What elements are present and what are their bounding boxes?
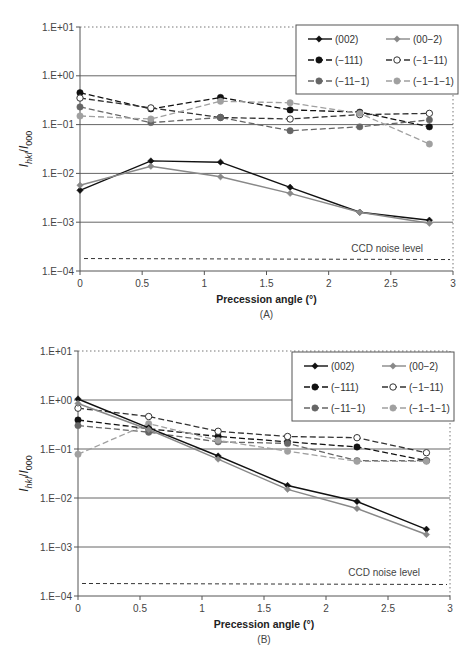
x-tick-label: 0.5 <box>133 603 147 614</box>
legend-label: (00−2) <box>409 361 438 372</box>
diamond-marker-icon <box>287 184 293 190</box>
open-circle-marker-icon <box>284 433 290 439</box>
legend-label: (−11−1) <box>335 76 369 87</box>
legend-label: (002) <box>335 34 358 45</box>
series-002 <box>77 158 433 224</box>
legend-label: (−11−1) <box>331 403 365 414</box>
filled-circle-marker-icon <box>357 124 363 130</box>
open-circle-marker-icon <box>77 95 83 101</box>
chart-panel-b: 1.E+011.E+001.E−011.E−021.E−031.E−0400.5… <box>0 330 476 660</box>
diamond-marker-icon <box>357 209 363 215</box>
open-circle-marker-icon <box>287 116 293 122</box>
diamond-marker-icon <box>354 498 360 504</box>
ccd-noise-label: CCD noise level <box>348 567 420 578</box>
legend-label: (00−2) <box>413 34 442 45</box>
diamond-marker-icon <box>354 505 360 511</box>
open-circle-marker-icon <box>215 428 221 434</box>
filled-circle-marker-icon <box>287 100 293 106</box>
y-tick-label: 1.E+01 <box>40 346 72 357</box>
filled-circle-marker-icon <box>215 437 221 443</box>
ccd-noise-label: CCD noise level <box>351 243 423 254</box>
legend-label: (−1−1−1) <box>413 76 454 87</box>
x-tick-label: 2 <box>326 278 332 289</box>
series-line <box>78 426 426 461</box>
y-tick-label: 1.E−04 <box>40 591 72 602</box>
filled-circle-marker-icon <box>217 98 223 104</box>
series-line <box>78 404 426 535</box>
filled-circle-marker-icon <box>316 57 322 63</box>
diamond-marker-icon <box>423 531 429 537</box>
y-tick-label: 1.E−03 <box>42 217 74 228</box>
series-line <box>80 101 429 144</box>
legend-label: (−1−11) <box>413 55 447 66</box>
x-tick-label: 2.5 <box>384 278 398 289</box>
filled-circle-marker-icon <box>354 444 360 450</box>
y-tick-label: 1.E+00 <box>40 395 72 406</box>
legend-label: (−111) <box>335 55 363 66</box>
panel-caption: (A) <box>260 309 273 320</box>
x-axis-title: Precession angle (°) <box>214 618 314 630</box>
y-tick-label: 1.E−01 <box>42 119 74 130</box>
filled-circle-marker-icon <box>284 448 290 454</box>
open-circle-marker-icon <box>148 105 154 111</box>
filled-circle-marker-icon <box>423 458 429 464</box>
x-tick-label: 2.5 <box>381 603 395 614</box>
filled-circle-marker-icon <box>394 78 400 84</box>
x-tick-label: 3 <box>447 603 453 614</box>
chart-panel-a: 1.E+011.E+001.E−011.E−021.E−031.E−0400.5… <box>0 0 476 330</box>
open-circle-marker-icon <box>145 413 151 419</box>
filled-circle-marker-icon <box>217 114 223 120</box>
x-tick-label: 1 <box>202 278 208 289</box>
open-circle-marker-icon <box>354 435 360 441</box>
x-tick-label: 0 <box>75 603 81 614</box>
y-axis-title: Ihkl/I000 <box>17 131 34 168</box>
filled-circle-marker-icon <box>287 127 293 133</box>
y-tick-label: 1.E−02 <box>40 493 72 504</box>
filled-circle-marker-icon <box>426 141 432 147</box>
filled-circle-marker-icon <box>426 124 432 130</box>
series-line <box>80 161 429 220</box>
y-tick-label: 1.E−03 <box>40 542 72 553</box>
y-tick-label: 1.E−01 <box>40 444 72 455</box>
open-circle-marker-icon <box>390 384 396 390</box>
y-tick-label: 1.E+00 <box>42 70 74 81</box>
legend-label: (−111) <box>331 382 359 393</box>
legend: (002)(00−2)(−111)(−1−11)(−11−1)(−1−1−1) <box>292 352 454 421</box>
filled-circle-marker-icon <box>312 405 318 411</box>
x-tick-label: 0 <box>77 278 83 289</box>
filled-circle-marker-icon <box>75 451 81 457</box>
series-m11m1 <box>75 422 430 463</box>
x-axis-title: Precession angle (°) <box>216 293 316 305</box>
series-m111 <box>77 90 433 131</box>
filled-circle-marker-icon <box>357 110 363 116</box>
diamond-marker-icon <box>77 182 83 188</box>
open-circle-marker-icon <box>423 450 429 456</box>
filled-circle-marker-icon <box>148 116 154 122</box>
legend-label: (−1−11) <box>409 382 443 393</box>
ccd-noise-line <box>84 259 450 260</box>
open-circle-marker-icon <box>426 110 432 116</box>
y-tick-label: 1.E−02 <box>42 168 74 179</box>
x-tick-label: 3 <box>450 278 456 289</box>
diamond-marker-icon <box>217 159 223 165</box>
diamond-marker-icon <box>217 174 223 180</box>
series-line <box>78 420 426 461</box>
y-axis-title: Ihkl/I000 <box>17 455 34 492</box>
y-tick-label: 1.E+01 <box>42 22 74 33</box>
open-circle-marker-icon <box>394 57 400 63</box>
filled-circle-marker-icon <box>284 440 290 446</box>
filled-circle-marker-icon <box>426 117 432 123</box>
diamond-marker-icon <box>284 486 290 492</box>
filled-circle-marker-icon <box>77 104 83 110</box>
filled-circle-marker-icon <box>354 458 360 464</box>
filled-circle-marker-icon <box>312 384 318 390</box>
series-m111 <box>75 417 430 464</box>
x-tick-label: 1.5 <box>257 603 271 614</box>
filled-circle-marker-icon <box>75 422 81 428</box>
filled-circle-marker-icon <box>77 113 83 119</box>
y-tick-label: 1.E−04 <box>42 266 74 277</box>
x-tick-label: 1.5 <box>260 278 274 289</box>
x-tick-label: 0.5 <box>135 278 149 289</box>
filled-circle-marker-icon <box>316 78 322 84</box>
diamond-marker-icon <box>287 190 293 196</box>
